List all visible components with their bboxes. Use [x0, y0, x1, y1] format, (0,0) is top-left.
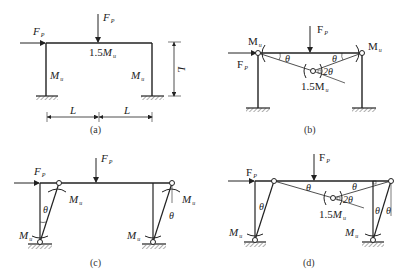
panel-d-left-base-moment-label: Mu	[229, 227, 242, 239]
panel-d-beam-right-angle-label: θ	[352, 182, 357, 192]
panel-a-left-column-moment-label: Mu	[50, 70, 63, 82]
panel-c-left-top-moment-label: Mu	[69, 194, 82, 206]
panel-c-vertical-force-label: FP	[101, 153, 112, 165]
panel-d-right-column-angle-label-2: θ	[386, 206, 391, 216]
panel-c-right-angle-label: θ	[169, 211, 174, 221]
panel-c-left-base-moment-label: Mu	[19, 230, 32, 242]
panel-c-caption: (c)	[90, 258, 101, 268]
panel-a-horizontal-force-label: FP	[33, 26, 44, 38]
panel-a-right-column-moment-label: Mu	[131, 70, 144, 82]
panel-c-right-top-moment-label: Mu	[182, 194, 195, 206]
plastic-hinge-mechanism-figure: FP FP 1.5Mu Mu Mu L L L (a) Mu Mu FP FP …	[0, 0, 403, 276]
panel-d-right-column-angle-label-1: θ	[375, 206, 380, 216]
panel-a-left-span-label: L	[70, 105, 76, 116]
panel-c-hinges	[38, 181, 175, 245]
panel-a-height-dimension-label: L	[176, 66, 187, 72]
panel-a-vertical-force-label: FP	[103, 12, 114, 24]
panel-c-left-angle-label: θ	[43, 205, 48, 215]
panel-b-left-hinge-moment-label: Mu	[248, 36, 262, 48]
panel-c-horizontal-force-label: FP	[34, 166, 45, 178]
panel-b-right-angle-label: θ	[332, 54, 337, 64]
panel-d-caption: (d)	[303, 258, 315, 268]
panel-d-beam-left-angle-label: θ	[306, 183, 311, 193]
panel-b-left-angle-label: θ	[285, 54, 290, 64]
panel-d-mid-hinge-moment-label: 1.5Mu	[319, 209, 346, 221]
panel-d-right-base-moment-label: Mu	[345, 227, 358, 239]
panel-d-mid-angle-label: 2θ	[343, 195, 353, 205]
panel-a-beam-moment-label: 1.5Mu	[89, 47, 116, 59]
panel-d-left-column-angle-label: θ	[259, 202, 264, 212]
frame-drawings	[0, 0, 403, 276]
panel-b-mid-hinge-moment-label: 1.5Mu	[301, 81, 329, 93]
panel-d-horizontal-force-label: FP	[246, 167, 257, 179]
panel-a-caption: (a)	[90, 125, 101, 135]
panel-b-horizontal-force-label: FP	[237, 59, 248, 71]
panel-b-caption: (b)	[304, 125, 316, 135]
panel-b-right-hinge-moment-label: Mu	[368, 41, 382, 53]
panel-a-right-span-label: L	[124, 105, 130, 116]
panel-b-mid-angle-label: 2θ	[323, 67, 333, 77]
panel-d-vertical-force-label: FP	[319, 152, 330, 164]
panel-b-vertical-force-label: FP	[317, 24, 328, 36]
panel-c-right-base-moment-label: Mu	[127, 230, 140, 242]
